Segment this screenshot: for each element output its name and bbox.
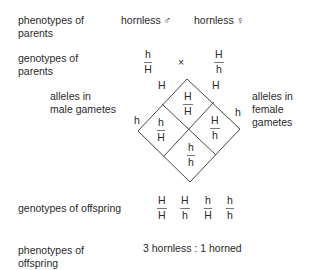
- male-allele-h: h: [134, 114, 140, 127]
- offspring-genotype: h H: [204, 195, 212, 221]
- phenotypes-of-offspring-label: phenotypes of offspring: [18, 244, 84, 270]
- punnett-cell-bottom: h h: [187, 142, 195, 168]
- punnett-cell-top: H H: [183, 91, 193, 117]
- offspring-genotype: H h: [180, 195, 190, 221]
- offspring-phenotype-ratio: 3 hornless : 1 horned: [143, 242, 242, 255]
- offspring-genotype: H H: [157, 195, 167, 221]
- punnett-cell-left: h H: [157, 117, 165, 143]
- offspring-genotype: h h: [226, 195, 234, 221]
- female-allele-H: H: [212, 79, 220, 92]
- punnett-cell-right: H h: [210, 115, 220, 141]
- female-allele-h: h: [235, 106, 241, 119]
- genotypes-of-offspring-label: genotypes of offspring: [18, 202, 121, 215]
- male-allele-H: H: [158, 79, 166, 92]
